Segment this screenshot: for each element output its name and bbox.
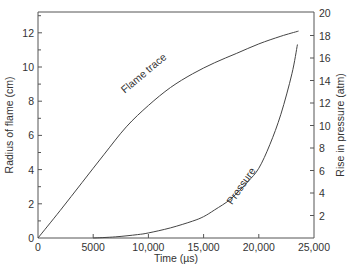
y2-tick-label: 8	[319, 142, 325, 154]
y2-tick-label: 20	[319, 7, 331, 19]
x-tick-label: 25,000	[298, 241, 330, 253]
pressure-annotation: Pressure	[224, 165, 258, 206]
y-tick-label: 2	[28, 198, 34, 210]
chart: 0500010,00015,00020,00025,00002468101224…	[0, 0, 351, 278]
y2-tick-label: 2	[319, 210, 325, 222]
y-tick-label: 8	[28, 95, 34, 107]
curves	[38, 31, 299, 238]
y-axis-label: Radius of flame (cm)	[3, 77, 15, 174]
axes	[38, 12, 314, 238]
y2-tick-label: 4	[319, 187, 325, 199]
ticks: 0500010,00015,00020,00025,00002468101224…	[22, 7, 331, 253]
flame-trace-line	[38, 31, 299, 238]
x-tick-label: 0	[35, 241, 41, 253]
y2-tick-label: 14	[319, 75, 331, 87]
y-tick-label: 0	[28, 232, 34, 244]
x-axis-label: Time (µs)	[154, 252, 198, 264]
y2-tick-label: 10	[319, 120, 331, 132]
y2-axis-label: Rise in pressure (atm)	[334, 73, 346, 176]
y-tick-label: 6	[28, 129, 34, 141]
flame-trace-annotation: Flame trace	[118, 50, 168, 95]
y2-tick-label: 12	[319, 97, 331, 109]
y-tick-label: 4	[28, 164, 34, 176]
y2-tick-label: 6	[319, 165, 325, 177]
y2-tick-label: 18	[319, 30, 331, 42]
pressure-line	[93, 45, 297, 239]
y2-tick-label: 16	[319, 52, 331, 64]
x-tick-label: 20,000	[243, 241, 275, 253]
y-tick-label: 12	[22, 27, 34, 39]
x-tick-label: 5000	[82, 241, 106, 253]
y-tick-label: 10	[22, 61, 34, 73]
